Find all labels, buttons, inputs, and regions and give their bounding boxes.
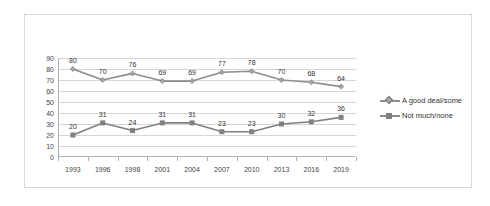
- data-point-marker: [249, 129, 254, 134]
- data-point-marker: [219, 129, 224, 134]
- data-label: 31: [99, 110, 107, 117]
- data-label: 36: [337, 105, 345, 112]
- data-label: 77: [218, 60, 226, 67]
- data-label: 70: [99, 68, 107, 75]
- y-axis-tick-label: 0: [50, 154, 54, 161]
- data-label: 31: [158, 110, 166, 117]
- data-point-marker: [249, 69, 254, 74]
- data-point-marker: [70, 67, 75, 72]
- x-axis-tick-mark: [177, 157, 178, 161]
- x-axis-tick-label: 1993: [65, 166, 81, 173]
- chart-container: 9080706050403020100 19931996199820012004…: [24, 14, 472, 188]
- y-axis-tick-label: 20: [46, 132, 54, 139]
- data-label: 80: [69, 57, 77, 64]
- y-axis-tick-label: 90: [46, 55, 54, 62]
- data-label: 23: [248, 119, 256, 126]
- data-point-marker: [279, 78, 284, 83]
- chart-legend: A good deal/some Not much/none: [380, 93, 490, 123]
- y-axis-tick-label: 50: [46, 99, 54, 106]
- legend-item-series2[interactable]: Not much/none: [380, 108, 490, 123]
- data-point-marker: [339, 84, 344, 89]
- x-axis-tick-label: 1998: [125, 166, 141, 173]
- y-axis-tick-label: 80: [46, 66, 54, 73]
- x-axis-tick-label: 2016: [304, 166, 320, 173]
- plot-area: 9080706050403020100 19931996199820012004…: [58, 58, 356, 157]
- data-label: 24: [129, 118, 137, 125]
- x-axis-tick-mark: [356, 157, 357, 161]
- data-label: 31: [188, 110, 196, 117]
- y-axis-tick-label: 60: [46, 88, 54, 95]
- x-axis-tick-mark: [326, 157, 327, 161]
- data-point-marker: [70, 133, 75, 138]
- data-label: 70: [278, 68, 286, 75]
- x-axis-tick-mark: [207, 157, 208, 161]
- data-label: 69: [158, 69, 166, 76]
- x-axis-tick-mark: [147, 157, 148, 161]
- legend-label-series2: Not much/none: [402, 112, 453, 120]
- legend-label-series1: A good deal/some: [402, 97, 462, 105]
- data-point-marker: [160, 120, 165, 125]
- data-label: 78: [248, 59, 256, 66]
- y-axis-tick-label: 10: [46, 143, 54, 150]
- series-line-1: [73, 69, 341, 87]
- x-axis-tick-label: 1996: [95, 166, 111, 173]
- x-axis-tick-label: 2001: [155, 166, 171, 173]
- y-axis-tick-label: 70: [46, 77, 54, 84]
- x-axis-tick-label: 2010: [244, 166, 260, 173]
- data-label: 20: [69, 123, 77, 130]
- x-axis-tick-mark: [88, 157, 89, 161]
- data-point-marker: [339, 115, 344, 120]
- data-point-marker: [190, 120, 195, 125]
- series-line-2: [73, 117, 341, 135]
- data-label: 30: [278, 112, 286, 119]
- data-point-marker: [219, 70, 224, 75]
- data-point-marker: [309, 119, 314, 124]
- x-axis-tick-mark: [296, 157, 297, 161]
- x-axis-tick-label: 2019: [333, 166, 349, 173]
- data-label: 64: [337, 74, 345, 81]
- y-axis-tick-label: 40: [46, 110, 54, 117]
- x-axis-tick-mark: [58, 157, 59, 161]
- legend-item-series1[interactable]: A good deal/some: [380, 93, 490, 108]
- data-point-marker: [190, 79, 195, 84]
- data-label: 69: [188, 69, 196, 76]
- data-point-marker: [309, 80, 314, 85]
- data-point-marker: [279, 122, 284, 127]
- data-point-marker: [130, 128, 135, 133]
- x-axis-tick-label: 2004: [184, 166, 200, 173]
- data-label: 32: [307, 109, 315, 116]
- y-axis-tick-label: 30: [46, 121, 54, 128]
- data-point-marker: [100, 78, 105, 83]
- x-axis-tick-label: 2007: [214, 166, 230, 173]
- data-label: 76: [129, 61, 137, 68]
- data-point-marker: [130, 71, 135, 76]
- x-axis-tick-mark: [267, 157, 268, 161]
- data-label: 68: [307, 70, 315, 77]
- data-point-marker: [100, 120, 105, 125]
- data-label: 23: [218, 119, 226, 126]
- x-axis-tick-label: 2013: [274, 166, 290, 173]
- x-axis-tick-mark: [118, 157, 119, 161]
- data-point-marker: [160, 79, 165, 84]
- legend-marker-diamond-icon: [380, 95, 400, 106]
- legend-marker-square-icon: [380, 110, 400, 121]
- x-axis-tick-mark: [237, 157, 238, 161]
